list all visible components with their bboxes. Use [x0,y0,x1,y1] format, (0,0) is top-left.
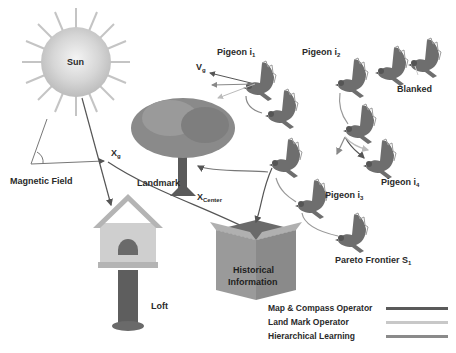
x-center-label: XCenter [197,192,222,203]
pigeon-4-sub: 4 [416,182,419,188]
pigeon-4-label: Pigeon i4 [381,177,419,188]
pigeon-1-label: Pigeon i1 [217,47,255,58]
pigeon-2-label: Pigeon i2 [302,47,340,58]
x-center-sub: Center [203,197,222,203]
historical-information-box-icon [210,220,302,300]
pigeon-1-text: Pigeon i [217,47,252,57]
legend-swatch [386,307,448,310]
loft-label: Loft [151,301,168,311]
legend-row-hierarchical: Hierarchical Learning [268,329,448,343]
pigeon-3-sub: 3 [360,195,363,201]
pigeon-2-sub: 2 [337,52,340,58]
legend-row-landmark: Land Mark Operator [268,315,448,329]
legend-swatch [386,321,448,324]
x-g-label: Xg [111,148,121,159]
pareto-sub: 1 [408,260,411,266]
pigeon-3-label: Pigeon i3 [325,190,363,201]
magnetic-field-label: Magnetic Field [10,176,73,186]
legend-row-map-compass: Map & Compass Operator [268,301,448,315]
legend-swatch [386,335,448,338]
pareto-text: Pareto Frontier S [335,255,408,265]
blanked-label: Blanked [397,84,432,94]
pigeon-1-sub: 1 [252,52,255,58]
pareto-frontier-label: Pareto Frontier S1 [335,255,411,266]
x-g-sub: g [117,153,121,159]
legend-label: Map & Compass Operator [268,303,372,313]
legend-label: Land Mark Operator [268,317,349,327]
legend: Map & Compass Operator Land Mark Operato… [268,301,448,343]
legend-label: Hierarchical Learning [268,331,355,341]
historical-label: Historical [233,265,274,275]
pigeon-group [243,38,441,253]
information-label: Information [228,277,278,287]
pigeon-4-text: Pigeon i [381,177,416,187]
sun-label: Sun [67,57,84,67]
pigeon-2-text: Pigeon i [302,47,337,57]
magnetic-field-icon [31,119,104,164]
landmark-label: Landmark [137,178,180,188]
pigeon-3-text: Pigeon i [325,190,360,200]
v-g-label: Vg [196,62,206,73]
v-g-sub: g [202,67,206,73]
